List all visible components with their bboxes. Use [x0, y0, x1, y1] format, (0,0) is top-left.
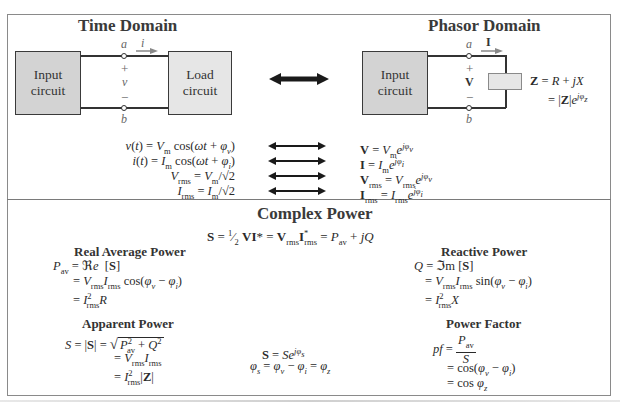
phasor-input-circuit-label: Input circuit [370, 67, 420, 99]
phasor-terminal-a-label: a [466, 37, 472, 52]
rms-current-eq: Irms = Im/√2 [80, 184, 235, 204]
phasor-domain-title: Phasor Domain [428, 16, 541, 36]
domain-transform-double-arrow-icon [269, 73, 329, 85]
impedance-equation: Z = R + jX [530, 74, 584, 89]
phasor-right-wire-bottom [505, 90, 507, 108]
time-terminal-a-label: a [121, 37, 127, 52]
time-terminal-a [121, 53, 127, 59]
load-circuit-box: Load circuit [168, 51, 232, 115]
apparent-power-line-3: = I2rms|Z| [114, 366, 154, 390]
power-factor-line-3: = cos φz [447, 376, 487, 396]
time-domain-title: Time Domain [78, 16, 177, 36]
reactive-power-line-1: Q = ℑm [S] [414, 259, 473, 274]
phasor-input-circuit-box: Input circuit [362, 51, 428, 115]
reactive-power-line-3: = I2rmsX [425, 289, 459, 313]
phasor-terminal-a [466, 53, 472, 59]
apparent-power-title: Apparent Power [82, 316, 174, 332]
time-input-circuit-box: Input circuit [15, 51, 81, 115]
reactive-power-title: Reactive Power [441, 244, 527, 260]
phasor-minus-sign: − [466, 90, 473, 106]
complex-power-main-eq: S = 1⁄2 VI* = VrmsI*rms = Pav + jQ [207, 226, 374, 250]
load-circuit-label: Load circuit [178, 67, 222, 99]
time-current-arrow-icon [136, 48, 158, 54]
polar-form-line-2: φs = φv − φi = φz [250, 359, 330, 379]
phasor-current-arrow-icon [481, 48, 503, 54]
time-input-circuit-label: Input circuit [23, 67, 73, 99]
page-edge [0, 400, 620, 402]
time-minus-sign: − [121, 90, 128, 106]
power-factor-title: Power Factor [446, 316, 521, 332]
impedance-polar-equation: = |Z|ejφz [548, 89, 588, 108]
correspondence-arrows-icon [268, 142, 326, 194]
impedance-element [488, 73, 522, 90]
complex-power-title: Complex Power [257, 204, 373, 224]
real-power-title: Real Average Power [74, 244, 186, 260]
time-voltage-label: v [122, 75, 127, 90]
phasor-voltage-label: V [465, 75, 474, 90]
phasor-terminal-b-label: b [466, 112, 472, 127]
time-terminal-b-label: b [121, 112, 127, 127]
phasor-right-wire-top [505, 55, 507, 73]
real-power-line-3: = I2rmsR [73, 289, 107, 313]
